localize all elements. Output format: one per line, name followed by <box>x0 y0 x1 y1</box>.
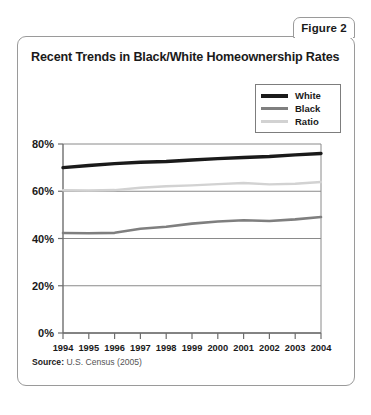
figure-card: Recent Trends in Black/White Homeownersh… <box>17 36 355 386</box>
xtick-label: 1998 <box>156 343 177 353</box>
legend-swatch-black <box>261 107 288 110</box>
xtick-label: 2003 <box>285 343 306 353</box>
xtick-label: 1999 <box>182 343 203 353</box>
figure-tab-label: Figure 2 <box>301 22 347 34</box>
legend-swatch-ratio <box>261 120 288 123</box>
xtick-label: 2001 <box>233 343 254 353</box>
source-text: U.S. Census (2005) <box>66 357 141 367</box>
chart-legend: White Black Ratio <box>255 84 341 133</box>
xtick-label: 1994 <box>53 343 75 353</box>
ytick-label: 0% <box>38 327 54 339</box>
xtick-label: 1996 <box>104 343 125 353</box>
ytick-label: 80% <box>32 138 54 150</box>
xtick-label: 1995 <box>78 343 99 353</box>
series-line-black <box>63 217 321 233</box>
legend-swatch-white <box>261 94 288 98</box>
tab-card-merge <box>295 35 353 38</box>
legend-label-ratio: Ratio <box>295 116 319 127</box>
legend-label-white: White <box>295 90 321 101</box>
source-note: Source: U.S. Census (2005) <box>32 357 142 367</box>
xtick-label: 2000 <box>207 343 228 353</box>
source-label: Source: <box>32 357 64 367</box>
legend-item-black: Black <box>261 102 334 115</box>
legend-item-ratio: Ratio <box>261 115 334 128</box>
series-line-white <box>63 153 321 167</box>
legend-label-black: Black <box>295 103 320 114</box>
ytick-label: 20% <box>32 280 54 292</box>
xtick-label: 2002 <box>259 343 280 353</box>
ytick-label: 40% <box>32 233 54 245</box>
xtick-label: 1997 <box>130 343 151 353</box>
legend-item-white: White <box>261 89 334 102</box>
series-line-ratio <box>63 182 321 191</box>
xtick-label: 2004 <box>311 343 333 353</box>
ytick-label: 60% <box>32 185 54 197</box>
